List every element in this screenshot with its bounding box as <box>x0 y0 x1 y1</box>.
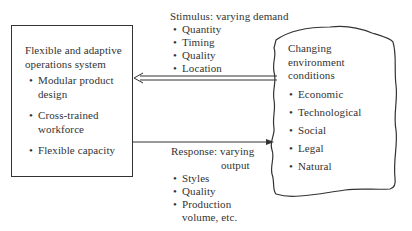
stimulus-item: Location <box>172 62 222 75</box>
response-item: Productionvolume, etc. <box>172 198 237 224</box>
response-item: Styles <box>172 172 237 185</box>
condition-item: Technological <box>288 103 361 121</box>
stimulus-label: Stimulus: varying demand <box>170 10 289 24</box>
feature-item: Flexible capacity <box>28 144 115 158</box>
operations-system-label: Flexible and adaptive operations system <box>25 44 122 71</box>
stimulus-item: Timing <box>172 36 222 49</box>
response-item: Quality <box>172 185 237 198</box>
condition-item: Legal <box>288 139 361 157</box>
feature-item: Cross-trainedworkforce <box>28 109 115 136</box>
response-label: Response: varying output <box>171 145 254 172</box>
stimulus-list: Quantity Timing Quality Location <box>172 23 222 75</box>
environment-conditions-list: Economic Technological Social Legal Natu… <box>288 85 361 175</box>
condition-item: Natural <box>288 157 361 175</box>
condition-item: Economic <box>288 85 361 103</box>
environment-label: Changing environment conditions <box>288 42 345 83</box>
condition-item: Social <box>288 121 361 139</box>
stimulus-item: Quantity <box>172 23 222 36</box>
feature-item: Modular productdesign <box>28 74 115 101</box>
operations-system-features: Modular productdesign Cross-trainedworkf… <box>28 74 115 158</box>
stimulus-item: Quality <box>172 49 222 62</box>
response-list: Styles Quality Productionvolume, etc. <box>172 172 237 224</box>
